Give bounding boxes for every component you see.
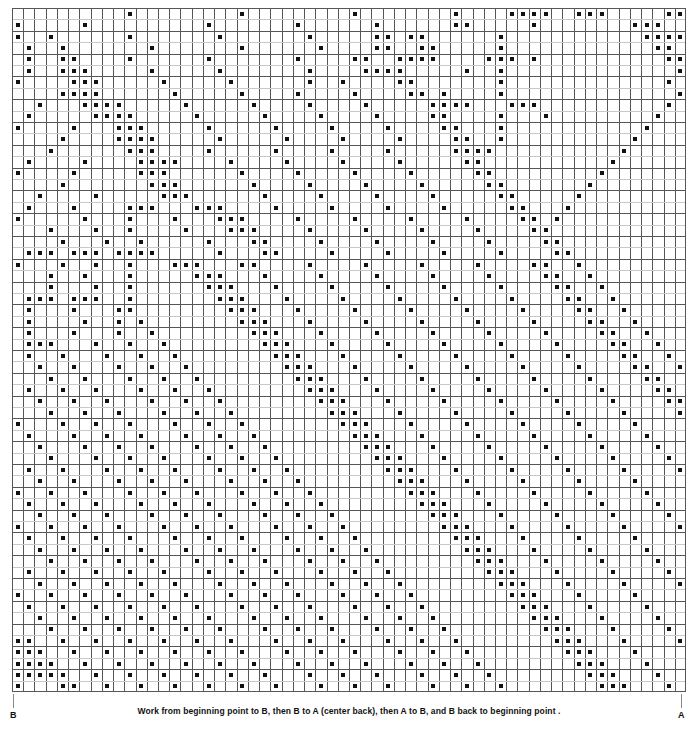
pattern-grid-canvas (12, 8, 686, 692)
chart-annotations: B A Work from beginning point to B, then… (0, 694, 698, 734)
chart-caption: Work from beginning point to B, then B t… (0, 706, 698, 716)
pattern-chart-page: B A Work from beginning point to B, then… (0, 0, 698, 748)
pattern-grid (12, 8, 686, 692)
